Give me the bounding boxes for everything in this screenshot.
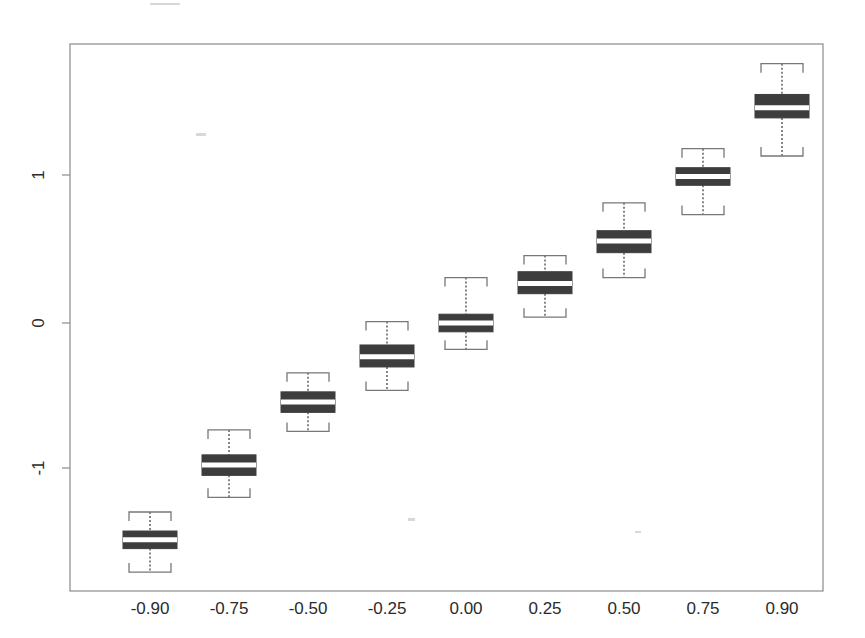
x-axis-labels: -0.90-0.75-0.50-0.250.000.250.500.750.90	[131, 599, 799, 618]
x-tick-label: -0.75	[210, 599, 249, 618]
plot-canvas: 1 0 -1 -0.90-0.75-0.50-0.250.000.250.500…	[0, 0, 865, 638]
x-tick-label: 0.00	[449, 599, 482, 618]
x-tick-label: -0.50	[289, 599, 328, 618]
x-tick-label: 0.90	[765, 599, 798, 618]
y-tick-label: -1	[29, 460, 48, 475]
x-tick-label: 0.25	[528, 599, 561, 618]
y-tick-label: 0	[29, 318, 48, 327]
x-tick-label: -0.25	[368, 599, 407, 618]
x-tick-label: 0.75	[686, 599, 719, 618]
y-tick-label: 1	[29, 170, 48, 179]
x-tick-label: 0.50	[607, 599, 640, 618]
boxplot-figure: 1 0 -1 -0.90-0.75-0.50-0.250.000.250.500…	[0, 0, 865, 638]
x-tick-label: -0.90	[131, 599, 170, 618]
